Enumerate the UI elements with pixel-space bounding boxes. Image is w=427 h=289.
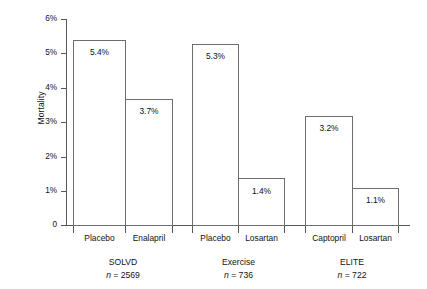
y-tick-mark xyxy=(61,88,67,89)
y-tick-mark xyxy=(61,225,67,226)
x-tick-mark xyxy=(352,226,353,233)
y-tick-label-wrap: 0 xyxy=(29,221,57,230)
y-tick-mark xyxy=(61,191,67,192)
x-category-label-placebo-exercise: Placebo xyxy=(192,234,239,243)
y-tick-label: 6% xyxy=(29,15,57,23)
x-tick-mark xyxy=(125,226,126,233)
group-n-elite: n = 722 xyxy=(305,270,399,280)
group-label-solvd: SOLVD xyxy=(73,257,173,267)
group-n-solvd: n = 2569 xyxy=(73,270,173,280)
bar-value-label: 3.7% xyxy=(125,107,173,116)
x-tick-mark xyxy=(172,226,173,233)
bar-value-label: 5.4% xyxy=(73,48,126,57)
group-n-value: = 736 xyxy=(231,270,253,280)
x-category-label-captopril-elite: Captopril xyxy=(305,234,353,243)
x-category-label-losartan-exercise: Losartan xyxy=(238,234,285,243)
y-tick-label: 4% xyxy=(29,84,57,92)
x-tick-mark xyxy=(284,226,285,233)
x-category-label-placebo-solvd: Placebo xyxy=(73,234,126,243)
group-n-prefix: n xyxy=(338,270,343,280)
y-tick-label: 5% xyxy=(29,49,57,57)
y-tick-label: 0 xyxy=(29,221,57,229)
group-label-exercise: Exercise xyxy=(192,257,285,267)
x-tick-mark xyxy=(192,226,193,233)
group-n-exercise: n = 736 xyxy=(192,270,285,280)
group-label-elite: ELITE xyxy=(305,257,399,267)
group-n-value: = 2569 xyxy=(113,270,140,280)
bar-value-label: 1.4% xyxy=(238,187,285,196)
bar-chart: Mortality 6% 5% 4% 3% 2% 1% 0 5.4% 3.7% xyxy=(0,0,427,289)
y-tick-mark xyxy=(61,19,67,20)
bar-enalapril-solvd xyxy=(125,99,173,226)
group-n-value: = 722 xyxy=(345,270,367,280)
y-tick-label: 3% xyxy=(29,118,57,126)
x-category-label-losartan-elite: Losartan xyxy=(352,234,399,243)
x-tick-mark xyxy=(73,226,74,233)
y-tick-label-wrap: 3% xyxy=(29,118,57,127)
y-tick-label-wrap: 1% xyxy=(29,187,57,196)
y-tick-label-wrap: 5% xyxy=(29,49,57,58)
y-tick-label-wrap: 4% xyxy=(29,84,57,93)
group-n-prefix: n xyxy=(224,270,229,280)
y-tick-label: 2% xyxy=(29,153,57,161)
bar-placebo-solvd xyxy=(73,40,126,226)
x-category-label-enalapril-solvd: Enalapril xyxy=(125,234,173,243)
x-tick-mark xyxy=(238,226,239,233)
bar-placebo-exercise xyxy=(192,44,239,226)
y-tick-label-wrap: 2% xyxy=(29,153,57,162)
bar-value-label: 5.3% xyxy=(192,52,239,61)
y-tick-label: 1% xyxy=(29,187,57,195)
y-tick-label-wrap: 6% xyxy=(29,15,57,24)
x-tick-mark xyxy=(398,226,399,233)
y-tick-mark xyxy=(61,122,67,123)
y-tick-mark xyxy=(61,53,67,54)
bar-value-label: 1.1% xyxy=(352,196,399,205)
x-tick-mark xyxy=(305,226,306,233)
group-n-prefix: n xyxy=(106,270,111,280)
bar-value-label: 3.2% xyxy=(305,124,353,133)
bar-losartan-elite xyxy=(352,188,399,226)
y-tick-mark xyxy=(61,157,67,158)
